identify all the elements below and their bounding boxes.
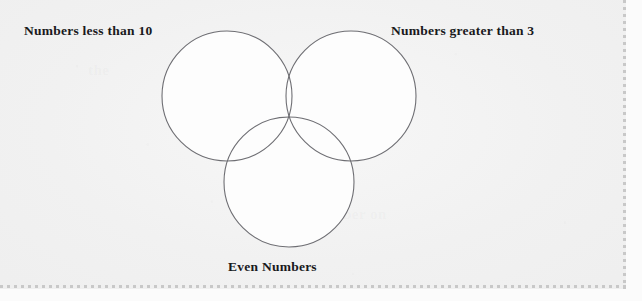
page-edge-bottom-dashed <box>0 285 626 288</box>
page-margin-bottom <box>0 289 626 301</box>
venn-label-right: Numbers greater than 3 <box>391 23 534 39</box>
venn-label-bottom: Even Numbers <box>228 259 317 275</box>
venn-fills <box>162 31 416 247</box>
worksheet-page: the a number on Numbers less than 10 Num… <box>0 0 642 301</box>
page-margin-right <box>626 0 642 301</box>
venn-label-left: Numbers less than 10 <box>24 23 152 39</box>
venn-circle-bottom-fill <box>224 117 354 247</box>
venn-diagram <box>0 0 642 301</box>
